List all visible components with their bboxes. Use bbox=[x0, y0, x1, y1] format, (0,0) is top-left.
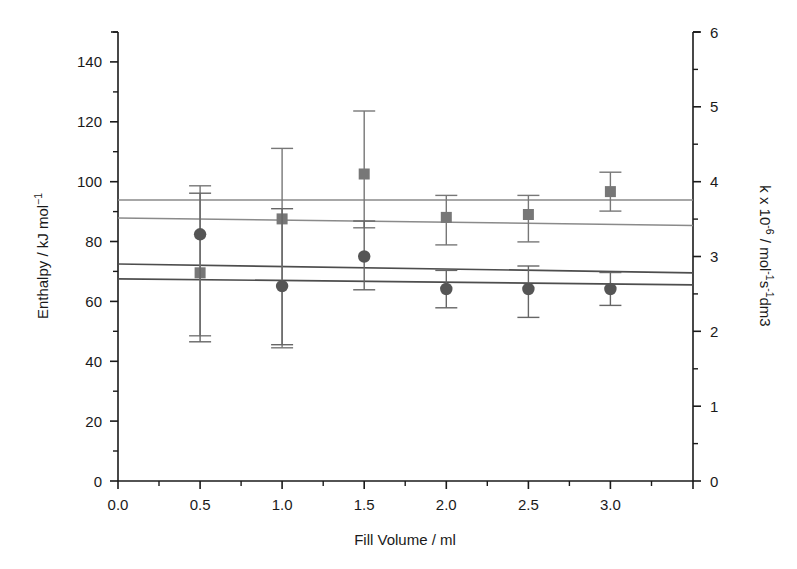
right-tick-label: 5 bbox=[710, 98, 718, 115]
data-point-square bbox=[605, 186, 616, 197]
bottom-tick-label: 2.0 bbox=[436, 496, 457, 513]
right-axis-title: k x 10-6 / mol-1s-1dm3 bbox=[757, 185, 776, 326]
left-tick-label: 20 bbox=[85, 413, 102, 430]
right-tick-label: 2 bbox=[710, 323, 718, 340]
errorbar-circle bbox=[189, 193, 211, 342]
data-point-circle bbox=[440, 283, 452, 295]
bottom-axis-title: Fill Volume / ml bbox=[354, 531, 456, 548]
left-tick-label: 140 bbox=[77, 53, 102, 70]
fit-line-enthalpy-lower bbox=[118, 279, 693, 285]
left-axis-ticks bbox=[110, 32, 118, 481]
data-point-circle bbox=[194, 228, 206, 240]
right-tick-label: 4 bbox=[710, 173, 718, 190]
data-point-circle bbox=[604, 283, 616, 295]
errorbar-circle bbox=[271, 209, 293, 345]
axis-spines bbox=[111, 32, 700, 481]
left-tick-label: 100 bbox=[77, 173, 102, 190]
left-tick-label: 0 bbox=[94, 473, 102, 490]
bottom-tick-label: 3.0 bbox=[600, 496, 621, 513]
bottom-tick-label: 1.0 bbox=[272, 496, 293, 513]
bottom-axis-ticks bbox=[118, 481, 693, 489]
scatter-plot: 0 20 40 60 80 100 120 140 0 1 bbox=[0, 0, 797, 569]
bottom-tick-label: 1.5 bbox=[354, 496, 375, 513]
series-squares bbox=[189, 111, 621, 348]
bottom-tick-label: 2.5 bbox=[518, 496, 539, 513]
chart-figure: 0 20 40 60 80 100 120 140 0 1 bbox=[0, 0, 797, 569]
right-tick-label: 0 bbox=[710, 473, 718, 490]
fit-line-k-lower bbox=[118, 218, 693, 226]
data-point-square bbox=[523, 209, 534, 220]
axis-titles: Enthalpy / kJ mol−1 k x 10-6 / mol-1s-1d… bbox=[32, 185, 776, 548]
left-tick-label: 40 bbox=[85, 353, 102, 370]
right-axis-tick-labels: 0 1 2 3 4 5 6 bbox=[710, 24, 718, 490]
bottom-tick-label: 0.5 bbox=[190, 496, 211, 513]
left-tick-label: 80 bbox=[85, 233, 102, 250]
left-axis-tick-labels: 0 20 40 60 80 100 120 140 bbox=[77, 53, 102, 489]
bottom-axis-tick-labels: 0.0 0.5 1.0 1.5 2.0 2.5 3.0 bbox=[108, 496, 621, 513]
data-point-circle bbox=[522, 283, 534, 295]
bottom-tick-label: 0.0 bbox=[108, 496, 129, 513]
left-axis-title: Enthalpy / kJ mol−1 bbox=[32, 193, 51, 319]
data-point-circle bbox=[358, 250, 370, 262]
right-tick-label: 3 bbox=[710, 248, 718, 265]
right-tick-label: 1 bbox=[710, 398, 718, 415]
right-axis-ticks bbox=[693, 32, 701, 481]
data-point-square bbox=[441, 212, 452, 223]
left-tick-label: 120 bbox=[77, 113, 102, 130]
left-tick-label: 60 bbox=[85, 293, 102, 310]
right-tick-label: 6 bbox=[710, 24, 718, 41]
data-point-circle bbox=[276, 280, 288, 292]
data-point-square bbox=[359, 169, 370, 180]
